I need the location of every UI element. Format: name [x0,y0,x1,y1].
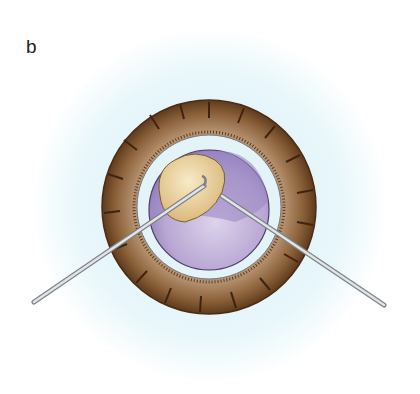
eye-surgery-diagram [0,0,420,394]
